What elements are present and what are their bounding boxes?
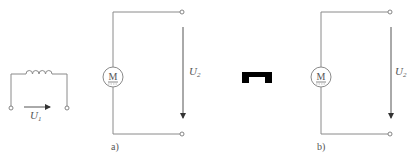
circuit-diagram: U1 M U2 a) M U2 b)	[0, 0, 411, 157]
terminal-icon	[180, 10, 184, 14]
terminal-icon	[388, 132, 392, 136]
inductor-left-wire	[11, 74, 26, 107]
circuit-b-wire	[321, 12, 388, 67]
blocking-symbol-icon	[242, 72, 272, 83]
inductor-circuit: U1	[9, 71, 69, 123]
caption-b: b)	[317, 141, 325, 153]
circuit-a-wire	[113, 87, 180, 134]
motor-icon: M	[103, 67, 123, 87]
inductor-coil-icon	[26, 71, 52, 74]
terminal-icon	[9, 106, 13, 110]
circuit-b: M U2 b)	[311, 10, 407, 153]
caption-a: a)	[111, 141, 119, 153]
circuit-a: M U2 a)	[103, 10, 201, 153]
terminal-icon	[388, 10, 392, 14]
svg-text:M: M	[109, 71, 118, 82]
circuit-b-wire	[321, 87, 388, 134]
voltage-label-u1: U1	[30, 109, 41, 123]
terminal-icon	[180, 132, 184, 136]
circuit-a-wire	[113, 12, 180, 67]
svg-text:M: M	[317, 71, 326, 82]
terminal-icon	[65, 106, 69, 110]
voltage-label-u2: U2	[189, 65, 201, 79]
inductor-right-wire	[52, 74, 67, 107]
voltage-label-u2: U2	[395, 65, 407, 79]
motor-icon: M	[311, 67, 331, 87]
